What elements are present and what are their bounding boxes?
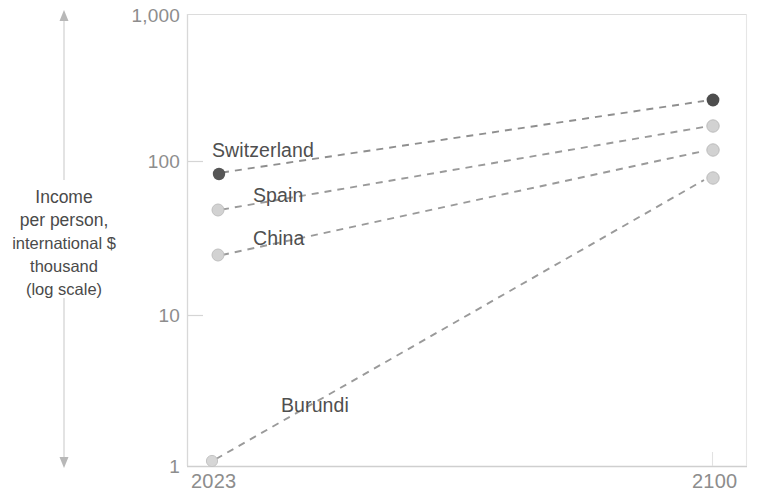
line-burundi — [216, 180, 704, 459]
y-axis-ticks — [188, 162, 203, 316]
y-axis-title-line-3: international $ — [0, 232, 128, 255]
series-label-burundi: Burundi — [281, 394, 349, 417]
marker-china-2023 — [212, 249, 224, 261]
y-axis-title: Income per person, international $ thous… — [0, 186, 128, 301]
y-axis-title-line-1: Income — [0, 186, 128, 209]
marker-switzerland-2100 — [707, 94, 720, 107]
y-tick-label-100: 100 — [60, 151, 180, 173]
marker-switzerland-2023 — [213, 168, 225, 180]
y-tick-label-1: 1 — [60, 456, 180, 478]
y-tick-label-1000: 1,000 — [60, 5, 180, 27]
marker-spain-2023 — [212, 204, 224, 216]
y-axis-title-line-5: (log scale) — [0, 278, 128, 301]
y-axis-title-line-4: thousand — [0, 255, 128, 278]
income-per-person-log-chart: Income per person, international $ thous… — [0, 0, 759, 497]
series-label-spain: Spain — [253, 184, 303, 207]
y-tick-label-10: 10 — [60, 305, 180, 327]
marker-burundi-2023 — [206, 455, 217, 466]
x-tick-label-2023: 2023 — [191, 470, 236, 493]
marker-burundi-2100 — [707, 172, 719, 184]
x-tick-label-2100: 2100 — [692, 470, 737, 493]
marker-spain-2100 — [707, 120, 719, 132]
series-label-china: China — [253, 227, 304, 250]
y-axis-title-line-2: per person, — [0, 209, 128, 232]
series-label-switzerland: Switzerland — [212, 139, 314, 162]
marker-china-2100 — [707, 144, 719, 156]
